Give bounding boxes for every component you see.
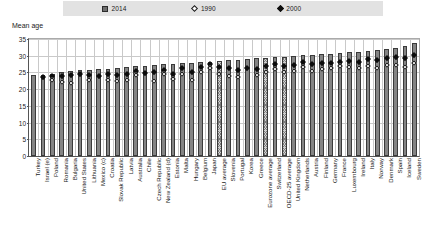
x-tick-label: Austria xyxy=(313,158,319,177)
x-tick-label: Belgium xyxy=(202,158,208,180)
gridline-vertical xyxy=(131,39,132,156)
x-tick-label: Finland xyxy=(323,158,329,178)
y-tick-label: 25 xyxy=(19,69,26,76)
bar-2014 xyxy=(161,64,166,156)
x-tick-label: Poland xyxy=(53,158,59,177)
x-tick-label: Romania xyxy=(63,158,69,182)
x-tick-label: United States xyxy=(81,158,87,195)
y-tick-mark xyxy=(27,156,29,157)
y-tick-label: 15 xyxy=(19,102,26,109)
bar-2014 xyxy=(87,70,92,156)
bar-2014 xyxy=(133,66,138,156)
x-tick-label: EU average xyxy=(221,158,227,190)
gridline-vertical xyxy=(280,39,281,156)
gridline-vertical xyxy=(196,39,197,156)
legend-item-2000: 2000 xyxy=(278,5,301,12)
gridline-vertical xyxy=(289,39,290,156)
bar-2014 xyxy=(96,69,101,156)
bar-2014 xyxy=(78,70,83,156)
x-tick-label: Luxembourg xyxy=(351,158,357,192)
gridline-vertical xyxy=(103,39,104,156)
y-tick-mark xyxy=(27,72,29,73)
gridline-vertical xyxy=(335,39,336,156)
gridline-vertical xyxy=(270,39,271,156)
x-tick-label: Germany xyxy=(332,158,338,183)
chart-page: 2014 1990 2000 Mean age 05101520253035 T… xyxy=(0,0,424,246)
gridline-vertical xyxy=(75,39,76,156)
bar-2014 xyxy=(301,55,306,156)
y-tick-mark xyxy=(27,123,29,124)
bar-2014 xyxy=(31,75,36,156)
x-tick-label: Malta xyxy=(183,158,189,173)
x-tick-label: OECD-25 average xyxy=(286,158,292,208)
legend-item-1990: 1990 xyxy=(192,5,215,12)
y-tick-label: 10 xyxy=(19,119,26,126)
bar-2014 xyxy=(143,66,148,156)
x-tick-label: Korea xyxy=(248,158,254,174)
x-tick-label: Netherlands xyxy=(304,158,310,191)
x-tick-label: Eurozone average xyxy=(267,158,273,208)
x-tick-label: Norway xyxy=(378,158,384,179)
x-tick-label: Sweden xyxy=(416,158,422,180)
gridline-vertical xyxy=(400,39,401,156)
x-tick-label: Iceland xyxy=(406,158,412,178)
x-tick-label: Spain xyxy=(397,158,403,174)
x-tick-label: Japan xyxy=(211,158,217,175)
gridline-vertical xyxy=(140,39,141,156)
gridline-vertical xyxy=(168,39,169,156)
x-tick-label: Mexico (c) xyxy=(100,158,106,186)
x-tick-label: Latvia xyxy=(128,158,134,174)
x-tick-label: Slovenia xyxy=(230,158,236,181)
gridline-vertical xyxy=(317,39,318,156)
gridline-vertical xyxy=(66,39,67,156)
gridline-vertical xyxy=(298,39,299,156)
x-tick-label: Bulgaria xyxy=(72,158,78,180)
plot-area: 05101520253035 xyxy=(28,38,420,157)
legend-label-2000: 2000 xyxy=(286,5,301,12)
y-axis-title: Mean age xyxy=(12,22,43,29)
bar-2014 xyxy=(208,62,213,156)
bar-2014 xyxy=(403,46,408,156)
x-tick-label: Estonia xyxy=(174,158,180,178)
x-tick-label: Slovak Republic xyxy=(118,158,124,202)
x-tick-label: Chile xyxy=(146,158,152,172)
gridline-vertical xyxy=(205,39,206,156)
y-tick-mark xyxy=(27,56,29,57)
y-tick-mark xyxy=(27,89,29,90)
gridline-vertical xyxy=(215,39,216,156)
x-tick-label: Israel (e) xyxy=(44,158,50,182)
filled-square-icon xyxy=(102,6,108,12)
x-tick-label: Italy xyxy=(369,158,375,169)
x-tick-label: France xyxy=(341,158,347,177)
bar-2014 xyxy=(198,62,203,156)
y-tick-mark xyxy=(27,139,29,140)
gridline-vertical xyxy=(373,39,374,156)
x-tick-label: Czech Republic xyxy=(156,158,162,201)
gridline-vertical xyxy=(410,39,411,156)
bar-2014 xyxy=(50,74,55,156)
gridline-vertical xyxy=(48,39,49,156)
x-tick-label: Ireland xyxy=(360,158,366,177)
x-tick-label: Greece xyxy=(258,158,264,178)
x-tick-label: Portugal xyxy=(239,158,245,181)
gridline-vertical xyxy=(243,39,244,156)
open-diamond-icon xyxy=(191,5,198,12)
gridline-vertical xyxy=(233,39,234,156)
gridline-vertical xyxy=(38,39,39,156)
chart-legend: 2014 1990 2000 xyxy=(63,1,383,16)
gridline-vertical xyxy=(85,39,86,156)
y-tick-label: 30 xyxy=(19,52,26,59)
gridline-vertical xyxy=(382,39,383,156)
x-tick-label: Hungary xyxy=(193,158,199,181)
gridline-vertical xyxy=(252,39,253,156)
legend-label-1990: 1990 xyxy=(201,5,216,12)
solid-diamond-icon xyxy=(277,5,284,12)
gridline-vertical xyxy=(94,39,95,156)
gridline-vertical xyxy=(224,39,225,156)
gridline-vertical xyxy=(354,39,355,156)
gridline-vertical xyxy=(57,39,58,156)
y-tick-label: 5 xyxy=(22,136,26,143)
y-tick-mark xyxy=(27,106,29,107)
x-axis-labels: TurkeyIsrael (e)PolandRomaniaBulgariaUni… xyxy=(28,158,420,244)
x-tick-label: Croatia xyxy=(109,158,115,178)
